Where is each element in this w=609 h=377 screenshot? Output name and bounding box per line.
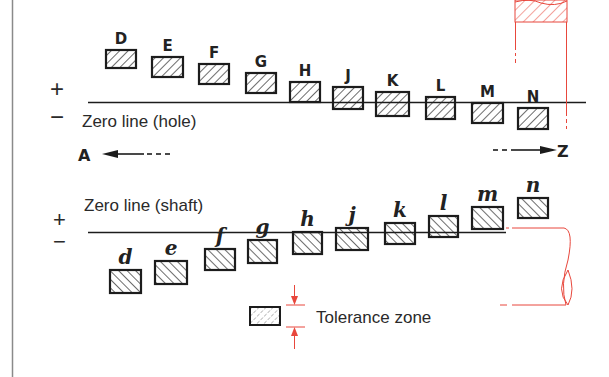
shaft-zone-j: j: [336, 203, 368, 250]
hole-section: + − Zero line (hole) DEFGHJKLMN A Z: [50, 0, 586, 165]
hole-zero-line-label: Zero line (hole): [82, 112, 196, 131]
hole-zone-M: M: [472, 83, 503, 123]
tolerance-zone-box: [518, 108, 548, 129]
arrow-z-label: Z: [557, 142, 569, 161]
arrow-a-label: A: [78, 146, 91, 165]
zone-letter-label: M: [480, 83, 495, 101]
shaft-zone-m: m: [472, 182, 503, 229]
shaft-zone-d: d: [110, 245, 141, 293]
legend-label: Tolerance zone: [316, 308, 431, 327]
zone-letter-label: K: [387, 72, 400, 90]
zone-letter-label: n: [526, 173, 541, 197]
legend: Tolerance zone: [250, 285, 431, 349]
hole-plus-sign: +: [50, 75, 64, 102]
zone-letter-label: D: [115, 30, 127, 48]
hole-zone-K: K: [376, 72, 409, 116]
shaft-zone-h: h: [293, 207, 322, 254]
hole-zone-G: G: [246, 53, 276, 93]
shaft-zone-k: k: [385, 198, 415, 244]
tolerance-zone-box: [248, 240, 277, 263]
shaft-zone-e: e: [155, 236, 187, 284]
zone-letter-label: g: [256, 215, 270, 239]
tolerance-zone-box: [472, 207, 503, 229]
arrow-right-icon: [493, 146, 557, 154]
shaft-zone-l: l: [429, 191, 458, 237]
zone-letter-label: J: [344, 67, 351, 85]
hole-zone-F: F: [199, 44, 229, 84]
shaft-zone-g: g: [248, 215, 277, 263]
tolerance-zone-box: [472, 103, 503, 123]
zone-letter-label: G: [255, 53, 267, 71]
shaft-zone-f: f: [205, 224, 235, 270]
hole-zone-E: E: [152, 37, 183, 77]
zone-letter-label: d: [119, 245, 133, 269]
shaft-minus-sign: −: [53, 229, 66, 254]
zone-letter-label: f: [214, 224, 228, 248]
shaft-outline-red: [500, 228, 572, 305]
zone-letter-label: k: [393, 198, 407, 222]
tolerance-zones-diagram: + − Zero line (hole) DEFGHJKLMN A Z: [0, 0, 609, 377]
legend-tolerance-swatch: [250, 307, 280, 325]
zone-letter-label: l: [440, 191, 448, 215]
tolerance-zone-box: [293, 232, 322, 254]
hole-zone-D: D: [106, 30, 136, 68]
tolerance-zone-box: [246, 73, 276, 93]
zone-letter-label: m: [477, 182, 498, 206]
tolerance-zone-box: [155, 261, 187, 284]
tolerance-zone-box: [333, 87, 363, 109]
zone-letter-label: L: [436, 77, 446, 95]
zone-letter-label: H: [299, 62, 312, 80]
zone-letter-label: h: [300, 207, 315, 231]
tolerance-zone-box: [336, 228, 368, 250]
tolerance-zone-box: [199, 64, 229, 84]
tolerance-zone-box: [205, 249, 235, 270]
shaft-section: Zero line (shaft) + − defghjklmn: [53, 173, 572, 305]
tolerance-zone-box: [376, 92, 409, 116]
tolerance-zone-box: [290, 82, 320, 102]
zone-letter-label: e: [165, 236, 178, 260]
shaft-zero-line-label: Zero line (shaft): [84, 196, 203, 215]
hole-zone-L: L: [426, 77, 455, 119]
zone-letter-label: E: [162, 37, 172, 55]
zone-letter-label: N: [527, 88, 540, 106]
arrow-left-icon: [102, 150, 170, 158]
zone-letter-label: j: [344, 203, 356, 227]
tolerance-zone-box: [426, 97, 455, 119]
hole-minus-sign: −: [50, 103, 64, 130]
tolerance-zone-box: [106, 50, 136, 68]
tolerance-zone-box: [110, 270, 141, 293]
tolerance-zone-box: [152, 57, 183, 77]
tolerance-zone-box: [385, 223, 415, 244]
hole-zone-H: H: [290, 62, 320, 102]
hole-zone-J: J: [333, 67, 363, 109]
tolerance-zone-box: [518, 198, 548, 218]
zone-letter-label: F: [209, 44, 219, 62]
shaft-zone-n: n: [518, 173, 548, 218]
tolerance-zone-box: [429, 216, 458, 237]
tolerance-dimension-arrows-icon: [286, 285, 305, 349]
hole-zone-N: N: [518, 88, 548, 129]
